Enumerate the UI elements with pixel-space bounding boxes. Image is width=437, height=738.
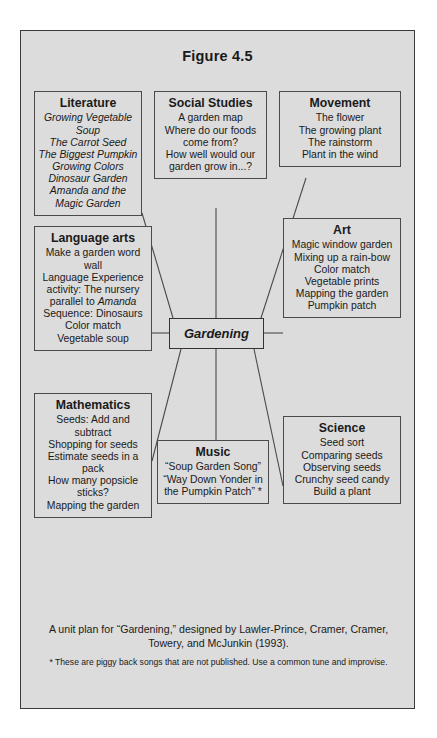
node-literature-item: Amanda and the Magic Garden [38,185,138,209]
node-science-item: Crunchy seed candy [287,474,397,486]
node-mathematics-item: How many popsicle sticks? [38,475,148,499]
figure-credit: A unit plan for “Gardening,” designed by… [35,623,402,650]
node-art-item: Vegetable prints [287,276,397,288]
italic-title: Amanda [98,296,137,307]
node-mathematics-item: Mapping the garden [38,500,148,512]
node-music-title: Music [161,445,265,459]
node-science-title: Science [287,421,397,435]
node-movement[interactable]: Movement The flower The growing plant Th… [279,91,401,167]
node-art-item: Mapping the garden [287,288,397,300]
node-language-arts-item: Color match [38,320,148,332]
node-science-item: Build a plant [287,486,397,498]
figure-container: Figure 4.5 Literature Growing Vegetable … [20,30,415,709]
node-literature[interactable]: Literature Growing Vegetable Soup The Ca… [34,91,142,216]
node-mathematics-title: Mathematics [38,398,148,412]
node-literature-item: Growing Colors [38,161,138,173]
node-literature-item: The Carrot Seed [38,137,138,149]
node-language-arts[interactable]: Language arts Make a garden word wall La… [34,226,152,351]
node-science-item: Comparing seeds [287,450,397,462]
node-mathematics-item: Estimate seeds in a pack [38,451,148,475]
figure-footnote: * These are piggy back songs that are no… [35,657,402,668]
node-art[interactable]: Art Magic window garden Mixing up a rain… [283,218,401,318]
node-art-item: Color match [287,264,397,276]
node-literature-title: Literature [38,96,138,110]
node-movement-item: The flower [283,112,397,124]
node-art-item: Pumpkin patch [287,300,397,312]
node-science[interactable]: Science Seed sort Comparing seeds Observ… [283,416,401,504]
node-music[interactable]: Music “Soup Garden Song” “Way Down Yonde… [157,440,269,504]
figure-title: Figure 4.5 [21,48,414,64]
node-mathematics[interactable]: Mathematics Seeds: Add and subtract Shop… [34,393,152,518]
node-literature-item: Dinosaur Garden [38,173,138,185]
node-mathematics-item: Shopping for seeds [38,439,148,451]
node-language-arts-item: Vegetable soup [38,333,148,345]
hub-node-gardening[interactable]: Gardening [169,318,264,349]
node-music-item: “Way Down Yonder in the Pumpkin Patch” * [161,474,265,498]
node-social-studies-item: A garden map [158,112,263,124]
node-language-arts-title: Language arts [38,231,148,245]
node-literature-item: Growing Vegetable Soup [38,112,138,136]
node-science-item: Seed sort [287,437,397,449]
node-movement-item: The rainstorm [283,137,397,149]
node-language-arts-item: Sequence: Dinosaurs [38,308,148,320]
node-mathematics-item: Seeds: Add and subtract [38,414,148,438]
node-art-item: Mixing up a rain-bow [287,252,397,264]
figure-footer: A unit plan for “Gardening,” designed by… [35,623,402,668]
node-literature-item: The Biggest Pumpkin [38,149,138,161]
node-social-studies[interactable]: Social Studies A garden map Where do our… [154,91,267,179]
node-music-item: “Soup Garden Song” [161,461,265,473]
node-science-item: Observing seeds [287,462,397,474]
node-social-studies-title: Social Studies [158,96,263,110]
node-movement-title: Movement [283,96,397,110]
node-art-item: Magic window garden [287,239,397,251]
node-art-title: Art [287,223,397,237]
node-movement-item: The growing plant [283,125,397,137]
node-social-studies-item: How well would our garden grow in...? [158,149,263,173]
node-language-arts-item: Language Experience activity: The nurser… [38,272,148,309]
node-movement-item: Plant in the wind [283,149,397,161]
node-social-studies-item: Where do our foods come from? [158,125,263,149]
node-language-arts-item: Make a garden word wall [38,247,148,271]
